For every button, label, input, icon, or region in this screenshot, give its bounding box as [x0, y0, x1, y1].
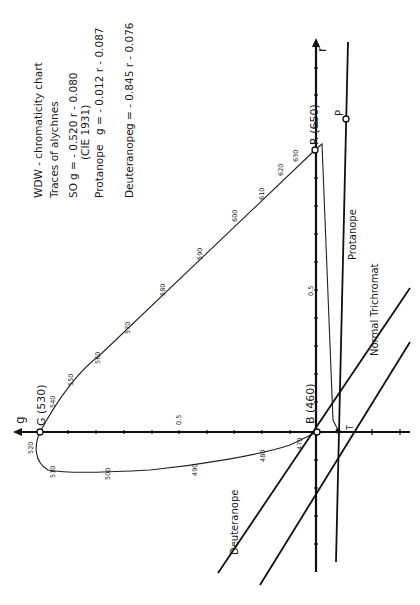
svg-text:540: 540: [49, 396, 57, 408]
g-axis-label: g: [13, 416, 27, 424]
point-t-label: T: [346, 425, 355, 431]
svg-text:520: 520: [27, 442, 35, 454]
svg-text:580: 580: [159, 284, 167, 296]
point-b-label: B (460): [304, 383, 317, 424]
purple-boundary: [315, 144, 338, 430]
legend: WDW - chromaticity chart Traces of alych…: [32, 22, 135, 199]
legend-protanope-equation: g = - 0.012 r - 0.087: [93, 27, 105, 135]
svg-text:630: 630: [292, 150, 300, 162]
g-axis-mid-tick: 0.5: [175, 415, 183, 425]
r-axis-label: r: [315, 47, 329, 52]
svg-text:510: 510: [49, 466, 57, 478]
svg-text:470: 470: [296, 438, 304, 450]
legend-title: WDW - chromaticity chart: [32, 62, 44, 198]
legend-deuteranope-equation: g = - 0.845 r - 0.076: [123, 22, 135, 130]
svg-text:600: 600: [231, 210, 239, 222]
legend-so-reference: (CIE 1931): [79, 105, 91, 160]
legend-deuteranope-label: Deuteranope: [123, 129, 135, 198]
svg-text:480: 480: [259, 450, 267, 462]
legend-so-label: SO: [67, 183, 79, 198]
svg-text:620: 620: [277, 164, 285, 176]
protanope-line-label: Protanope: [347, 209, 358, 260]
legend-so-equation: g = - 0.520 r - 0.080: [67, 72, 79, 180]
normal-trichromat-label: Normal Trichromat: [369, 263, 380, 356]
point-b: [314, 429, 320, 435]
svg-text:550: 550: [67, 374, 75, 386]
point-r-label: R (650): [308, 104, 321, 145]
legend-subtitle: Traces of alychnes: [48, 101, 60, 199]
svg-text:490: 490: [191, 464, 199, 476]
r-axis-mid-tick: 0.5: [307, 286, 315, 296]
svg-text:590: 590: [196, 248, 204, 260]
point-g: [37, 429, 43, 435]
point-g-label: G (530): [35, 384, 48, 426]
deuteranope-line: [260, 342, 410, 585]
svg-text:570: 570: [124, 322, 132, 334]
svg-text:610: 610: [258, 188, 266, 200]
point-t: [336, 429, 341, 434]
svg-text:500: 500: [104, 468, 112, 480]
svg-text:560: 560: [94, 352, 102, 364]
chromaticity-diagram: WDW - chromaticity chart Traces of alych…: [0, 0, 420, 605]
point-r: [312, 147, 318, 153]
deuteranope-line-label: Deuteranope: [229, 490, 240, 555]
point-p-label: P: [334, 110, 345, 116]
legend-protanope-label: Protanope: [93, 145, 105, 198]
